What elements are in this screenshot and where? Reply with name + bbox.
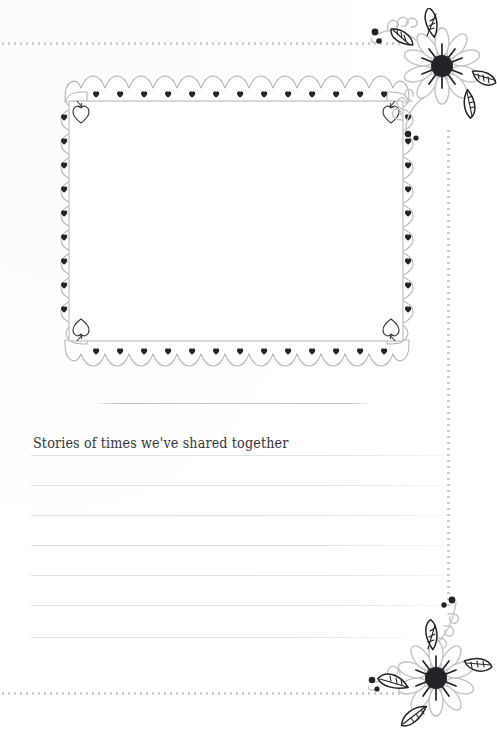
writing-line[interactable] [31, 545, 447, 546]
journal-page: Stories of times we've shared together [0, 0, 497, 732]
floral-corner-top-right [366, 8, 497, 148]
floral-corner-bottom-right [368, 592, 497, 732]
writing-line[interactable] [31, 575, 447, 576]
writing-line[interactable] [31, 637, 403, 638]
writing-line[interactable] [31, 455, 447, 456]
caption-prompt-text: Stories of times we've shared together [33, 435, 288, 452]
writing-line[interactable] [31, 485, 447, 486]
writing-line[interactable] [31, 515, 447, 516]
